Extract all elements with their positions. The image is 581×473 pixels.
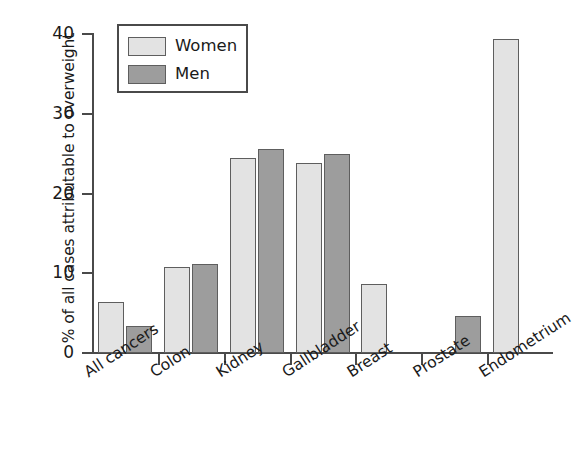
bar-colon-men[interactable]	[192, 264, 218, 353]
y-axis-tick-30	[82, 113, 92, 115]
y-axis-tick-label-40: 40	[14, 23, 74, 43]
y-axis-tick-20	[82, 193, 92, 195]
bar-gallbladder-women[interactable]	[296, 163, 322, 353]
legend-item-men[interactable]: Men	[128, 61, 246, 87]
legend-label-women: Women	[175, 38, 237, 55]
bar-colon-women[interactable]	[164, 267, 190, 353]
legend-swatch-men-icon	[128, 65, 166, 84]
y-axis-tick-10	[82, 272, 92, 274]
bar-kidney-women[interactable]	[230, 158, 256, 353]
bar-endometrium-women[interactable]	[493, 39, 519, 353]
y-axis-tick-label-30: 30	[14, 103, 74, 123]
bar-kidney-men[interactable]	[258, 149, 284, 353]
legend-label-men: Men	[175, 66, 210, 83]
chart-figure: % of all cases attributable to overweigh…	[0, 0, 581, 473]
legend-item-women[interactable]: Women	[128, 33, 246, 59]
legend-box: Women Men	[117, 24, 248, 93]
y-axis-tick-0	[82, 352, 92, 354]
legend-swatch-women-icon	[128, 37, 166, 56]
y-axis-tick-label-10: 10	[14, 262, 74, 282]
y-axis-tick-label-0: 0	[14, 342, 74, 362]
y-axis-tick-40	[82, 33, 92, 35]
y-axis-tick-label-20: 20	[14, 183, 74, 203]
